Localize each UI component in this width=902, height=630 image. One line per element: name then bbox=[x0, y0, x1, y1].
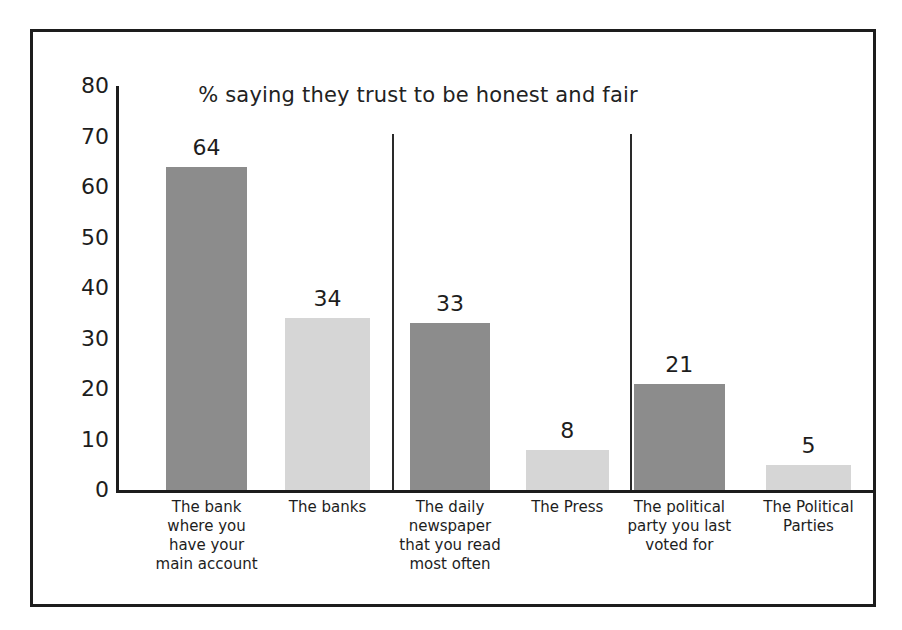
category-label-line: The banks bbox=[258, 498, 398, 517]
bar-value-label-4: 21 bbox=[634, 354, 725, 376]
bar-5 bbox=[766, 465, 851, 490]
figure-frame: % saying they trust to be honest and fai… bbox=[30, 29, 876, 607]
category-label-1: The banks bbox=[258, 498, 398, 517]
bar-4 bbox=[634, 384, 725, 490]
y-axis-tick-10: 10 bbox=[63, 429, 109, 451]
bar-value-label-2: 33 bbox=[410, 293, 490, 315]
bar-chart: % saying they trust to be honest and fai… bbox=[33, 32, 879, 610]
category-label-5: The PoliticalParties bbox=[738, 498, 878, 536]
y-axis-tick-70: 70 bbox=[63, 126, 109, 148]
y-axis-tick-60: 60 bbox=[63, 176, 109, 198]
group-divider-0 bbox=[392, 134, 394, 490]
category-label-line: most often bbox=[380, 555, 520, 574]
x-axis-line bbox=[116, 490, 876, 493]
category-label-line: main account bbox=[137, 555, 277, 574]
bar-value-label-0: 64 bbox=[166, 137, 246, 159]
y-axis-tick-50: 50 bbox=[63, 227, 109, 249]
bar-value-label-5: 5 bbox=[766, 435, 851, 457]
category-label-line: have your bbox=[137, 536, 277, 555]
plot-region: 6434338215 bbox=[119, 86, 876, 490]
bar-value-label-1: 34 bbox=[285, 288, 370, 310]
category-label-line: The bank bbox=[137, 498, 277, 517]
bar-1 bbox=[285, 318, 370, 490]
category-label-line: The Political bbox=[738, 498, 878, 517]
bar-0 bbox=[166, 167, 246, 490]
category-label-line: party you last bbox=[609, 517, 749, 536]
y-axis-tick-30: 30 bbox=[63, 328, 109, 350]
y-axis-tick-labels: 80706050403020100 bbox=[47, 32, 109, 502]
category-label-4: The politicalparty you lastvoted for bbox=[609, 498, 749, 555]
x-axis-category-labels: The bankwhere youhave yourmain accountTh… bbox=[119, 498, 876, 598]
y-axis-tick-0: 0 bbox=[63, 479, 109, 501]
category-label-0: The bankwhere youhave yourmain account bbox=[137, 498, 277, 574]
y-axis-tick-40: 40 bbox=[63, 277, 109, 299]
bar-3 bbox=[526, 450, 609, 490]
bar-value-label-3: 8 bbox=[526, 420, 609, 442]
y-axis-tick-80: 80 bbox=[63, 75, 109, 97]
category-label-line: voted for bbox=[609, 536, 749, 555]
bar-2 bbox=[410, 323, 490, 490]
category-label-line: Parties bbox=[738, 517, 878, 536]
category-label-line: newspaper bbox=[380, 517, 520, 536]
category-label-line: that you read bbox=[380, 536, 520, 555]
group-divider-1 bbox=[630, 134, 632, 490]
y-axis-tick-20: 20 bbox=[63, 378, 109, 400]
category-label-line: The political bbox=[609, 498, 749, 517]
category-label-line: where you bbox=[137, 517, 277, 536]
